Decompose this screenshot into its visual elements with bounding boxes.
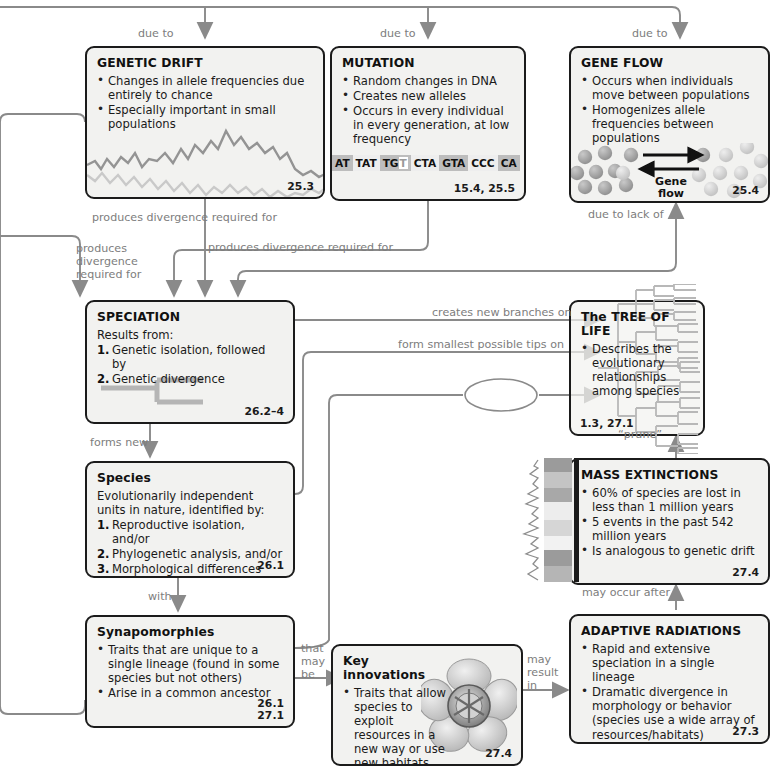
list-item: Traits that allow species to exploit res… (343, 686, 451, 766)
bullet-list: Changes in allele frequencies due entire… (97, 74, 313, 131)
list-item: Genetic isolation, followed by (97, 343, 283, 371)
box-title: SPECIATION (97, 310, 283, 324)
section-reference: 25.4 (732, 185, 759, 197)
section-reference: 26.1 27.1 (257, 698, 284, 722)
list-item: Occurs when individuals move between pop… (581, 74, 758, 102)
dna-mutation-highlight: T (399, 157, 408, 169)
box-title: ADAPTIVE RADIATIONS (581, 624, 758, 638)
box-lead: Results from: (97, 328, 283, 342)
label-prune: “prune” (618, 428, 662, 441)
box-title: Key innovations (343, 654, 451, 682)
list-item: Arise in a common ancestor (97, 686, 283, 700)
label-produces-divergence-mid: produces divergence required for (208, 241, 393, 254)
list-item: Traits that are unique to a single linea… (97, 643, 283, 685)
label-form-smallest-tips-on: form smallest possible tips on (398, 338, 564, 351)
list-item: Creates new alleles (342, 89, 514, 103)
numbered-list: Reproductive isolation, and/or Phylogene… (97, 518, 283, 576)
bullet-list: Describes the evolutionary relationships… (581, 342, 693, 398)
box-key-innovations[interactable]: Key innovations Traits that allow specie… (331, 644, 523, 766)
label-produces-divergence-top: produces divergence required for (92, 211, 277, 224)
dna-codon-strip: AT TAT TGT CTA GTA CCC CA (332, 155, 524, 171)
dna-codon: GTA (439, 155, 468, 171)
section-reference: 27.4 (485, 748, 512, 760)
label-due-to-gene-flow: due to (632, 27, 668, 40)
list-item: Changes in allele frequencies due entire… (97, 74, 313, 102)
box-title: MASS EXTINCTIONS (581, 468, 758, 482)
box-title: Species (97, 471, 283, 485)
box-title: GENE FLOW (581, 56, 758, 70)
label-creates-new-branches-on: creates new branches on (432, 306, 572, 319)
bullet-list: 60% of species are lost in less than 1 m… (581, 486, 758, 558)
dna-codon: CTA (411, 155, 439, 171)
list-item: Phylogenetic analysis, and/or (97, 547, 283, 561)
box-genetic-drift[interactable]: GENETIC DRIFT Changes in allele frequenc… (85, 46, 325, 199)
label-may-occur-after: may occur after (582, 586, 670, 599)
box-title: The TREE OF LIFE (581, 310, 693, 338)
label-may-result-in: may result in (527, 653, 558, 692)
box-mutation[interactable]: MUTATION Random changes in DNA Creates n… (330, 46, 526, 201)
section-reference: 15.4, 25.5 (454, 183, 515, 195)
bullet-list: Traits that allow species to exploit res… (343, 686, 451, 766)
dna-codon-mutated: TGT (380, 155, 411, 171)
list-item: Genetic divergence (97, 372, 283, 386)
box-lead: Evolutionarily independent units in natu… (97, 489, 283, 517)
bullet-list: Random changes in DNA Creates new allele… (342, 74, 514, 146)
box-species[interactable]: Species Evolutionarily independent units… (85, 461, 295, 578)
box-title: Synapomorphies (97, 625, 283, 639)
section-reference: 26.2–4 (244, 406, 284, 418)
list-item: Morphological differences (97, 562, 283, 576)
section-reference: 27.4 (732, 567, 759, 579)
numbered-list: Genetic isolation, followed by Genetic d… (97, 343, 283, 386)
svg-text:flow: flow (658, 187, 684, 200)
list-item: Describes the evolutionary relationships… (581, 342, 693, 398)
label-produces-divergence-left: produces divergence required for (76, 242, 141, 281)
label-that-may-be: that may be (301, 642, 325, 681)
bullet-list: Traits that are unique to a single linea… (97, 643, 283, 700)
list-item: Random changes in DNA (342, 74, 514, 88)
box-title: MUTATION (342, 56, 514, 70)
list-item: 60% of species are lost in less than 1 m… (581, 486, 758, 514)
label-with: with (148, 590, 172, 603)
dna-codon: TAT (353, 155, 380, 171)
label-due-to-lack-of: due to lack of (588, 208, 664, 221)
box-title: GENETIC DRIFT (97, 56, 313, 70)
list-item: Rapid and extensive speciation in a sing… (581, 642, 758, 684)
box-gene-flow[interactable]: Gene flow GENE FLOW Occurs when individu… (569, 46, 770, 203)
section-reference: 26.1 (257, 560, 284, 572)
label-due-to-drift: due to (138, 27, 174, 40)
dna-codon: AT (332, 155, 353, 171)
concept-map-canvas: GENETIC DRIFT Changes in allele frequenc… (0, 0, 775, 783)
list-item: 5 events in the past 542 million years (581, 515, 758, 543)
blank-answer-ellipse[interactable] (463, 377, 539, 413)
section-reference: 25.3 (287, 181, 314, 193)
list-item: Especially important in small population… (97, 103, 313, 131)
label-forms-new: forms new (90, 436, 148, 449)
label-due-to-mutation: due to (380, 27, 416, 40)
box-synapomorphies[interactable]: Synapomorphies Traits that are unique to… (85, 615, 295, 728)
list-item: Reproductive isolation, and/or (97, 518, 283, 546)
bullet-list: Occurs when individuals move between pop… (581, 74, 758, 145)
dna-codon: CCC (468, 155, 497, 171)
section-reference: 27.3 (732, 726, 759, 738)
box-adaptive-radiations[interactable]: ADAPTIVE RADIATIONS Rapid and extensive … (569, 614, 770, 744)
box-mass-extinctions[interactable]: MASS EXTINCTIONS 60% of species are lost… (569, 458, 770, 585)
list-item: Is analogous to genetic drift (581, 544, 758, 558)
dna-codon: CA (498, 155, 520, 171)
list-item: Homogenizes allele frequencies between p… (581, 103, 758, 145)
list-item: Occurs in every individual in every gene… (342, 104, 514, 146)
box-speciation[interactable]: SPECIATION Results from: Genetic isolati… (85, 300, 295, 424)
